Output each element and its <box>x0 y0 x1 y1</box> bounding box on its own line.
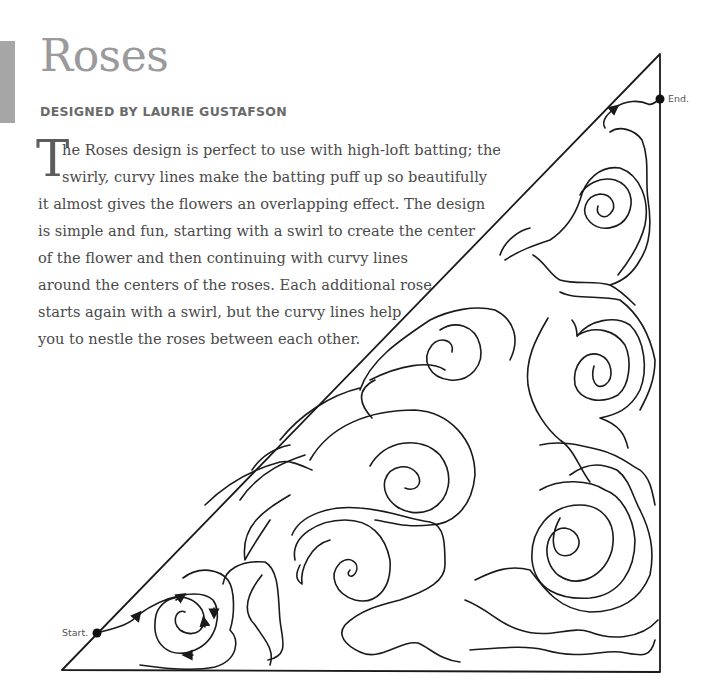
roses-quilting-diagram <box>0 0 720 681</box>
end-label: End. <box>668 93 689 104</box>
start-label: Start. <box>62 627 88 638</box>
triangle-frame <box>62 54 660 672</box>
end-dot <box>656 95 665 104</box>
start-dot <box>93 629 102 638</box>
